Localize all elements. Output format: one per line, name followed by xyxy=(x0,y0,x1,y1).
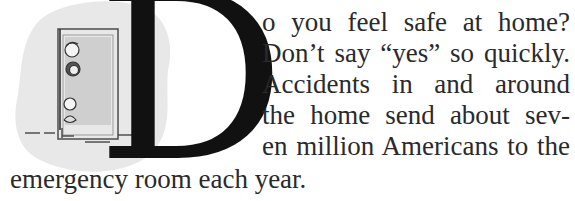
text-line-4: the home send about sev- xyxy=(262,100,570,131)
text-line-6: emergency room each year. xyxy=(10,164,306,195)
article-intro: D o you feel safe at home? Don’t say “ye… xyxy=(0,0,575,201)
text-line-2: Don’t say “yes” so quickly. xyxy=(262,38,570,69)
text-line-5: en million Americans to the xyxy=(262,131,570,162)
text-line-3: Accidents in and around xyxy=(262,69,570,100)
text-line-1: o you feel safe at home? xyxy=(262,7,570,38)
